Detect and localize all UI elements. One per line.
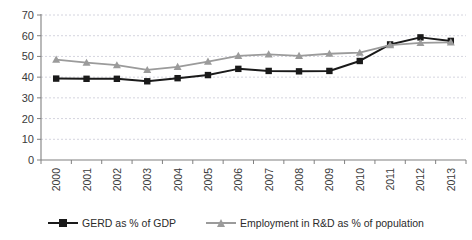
y-axis-tick-label: 70	[22, 9, 34, 21]
data-point-marker	[114, 76, 120, 82]
x-axis-tick-label: 2009	[323, 168, 335, 192]
y-axis-tick-label: 60	[22, 30, 34, 42]
x-axis-tick-label: 2006	[232, 168, 244, 192]
y-axis: 010203040506070	[22, 9, 41, 166]
x-axis-tick-label: 2004	[172, 168, 184, 192]
gridlines-group	[41, 15, 466, 139]
data-point-marker	[296, 68, 302, 74]
data-point-marker	[83, 76, 89, 82]
x-axis-tick-label: 2001	[81, 168, 93, 192]
legend-marker-swatch	[217, 219, 225, 227]
x-axis-tick-label: 2003	[141, 168, 153, 192]
chart-container: 010203040506070 200020012002200320042005…	[0, 0, 472, 240]
data-point-marker	[357, 58, 363, 64]
legend-marker-swatch	[59, 219, 67, 227]
legend-item-label: Employment in R&D as % of population	[240, 217, 424, 229]
legend-item-1[interactable]: GERD as % of GDP	[48, 217, 176, 229]
x-axis-tick-label: 2000	[50, 168, 62, 192]
x-axis-tick-label: 2012	[414, 168, 426, 192]
x-axis-tick-label: 2013	[445, 168, 457, 192]
y-axis-tick-label: 0	[28, 154, 34, 166]
legend-square-icon	[48, 217, 78, 229]
legend-item-2[interactable]: Employment in R&D as % of population	[206, 217, 424, 229]
legend-triangle-icon	[206, 217, 236, 229]
x-axis-tick-label: 2011	[384, 168, 396, 191]
y-axis-tick-label: 20	[22, 113, 34, 125]
data-point-marker	[235, 66, 241, 72]
x-axis-tick-label: 2007	[263, 168, 275, 192]
data-point-marker	[174, 75, 180, 81]
line-chart-svg: 010203040506070 200020012002200320042005…	[0, 0, 472, 205]
legend-item-label: GERD as % of GDP	[82, 217, 176, 229]
y-axis-tick-label: 50	[22, 50, 34, 62]
x-axis: 2000200120022003200420052006200720082009…	[41, 160, 466, 191]
x-axis-tick-label: 2008	[293, 168, 305, 192]
y-axis-tick-label: 10	[22, 133, 34, 145]
data-point-marker	[53, 75, 59, 81]
plot-area: 010203040506070 200020012002200320042005…	[0, 0, 472, 205]
data-point-marker	[326, 68, 332, 74]
y-axis-tick-label: 40	[22, 71, 34, 83]
x-axis-tick-label: 2010	[354, 168, 366, 192]
data-point-marker	[265, 68, 271, 74]
data-point-marker	[144, 78, 150, 84]
y-axis-tick-label: 30	[22, 92, 34, 104]
data-point-marker	[205, 72, 211, 78]
chart-legend: GERD as % of GDPEmployment in R&D as % o…	[0, 206, 472, 240]
x-axis-tick-label: 2005	[202, 168, 214, 192]
x-axis-tick-label: 2002	[111, 168, 123, 192]
